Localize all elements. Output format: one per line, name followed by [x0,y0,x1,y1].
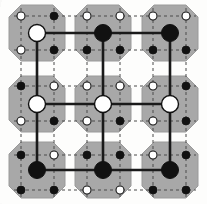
corner-node-white [182,12,190,20]
corner-node-black [50,12,58,20]
corner-node-white [83,117,91,125]
corner-node-white [149,12,157,20]
corner-node-black [182,117,190,125]
corner-node-white [149,151,157,159]
center-node-white [29,25,46,42]
corner-node-black [116,151,124,159]
center-node-white [95,96,112,113]
corner-node-black [182,46,190,54]
corner-node-black [83,151,91,159]
corner-node-white [116,12,124,20]
corner-node-white [17,117,25,125]
corner-node-white [116,82,124,90]
corner-node-white [83,82,91,90]
center-node-black [95,162,112,179]
corner-node-white [50,151,58,159]
diagram-canvas [0,0,207,204]
corner-node-white [17,46,25,54]
center-node-black [162,162,179,179]
corner-node-black [17,151,25,159]
corner-node-white [149,82,157,90]
corner-node-white [83,12,91,20]
lattice-diagram [0,0,207,204]
center-node-black [95,25,112,42]
corner-node-black [182,82,190,90]
corner-node-black [83,46,91,54]
corner-node-black [116,46,124,54]
corner-node-black [182,186,190,194]
corner-node-white [17,12,25,20]
corner-node-white [116,186,124,194]
corner-node-white [149,117,157,125]
corner-node-black [50,46,58,54]
center-node-white [29,96,46,113]
corner-node-black [50,117,58,125]
corner-node-black [149,186,157,194]
center-node-black [162,25,179,42]
corner-node-white [50,82,58,90]
corner-node-black [17,186,25,194]
corner-node-black [17,82,25,90]
corner-node-white [83,186,91,194]
corner-node-black [182,151,190,159]
center-node-black [29,162,46,179]
corner-node-black [116,117,124,125]
corner-node-black [50,186,58,194]
corner-node-black [149,46,157,54]
center-node-white [162,96,179,113]
